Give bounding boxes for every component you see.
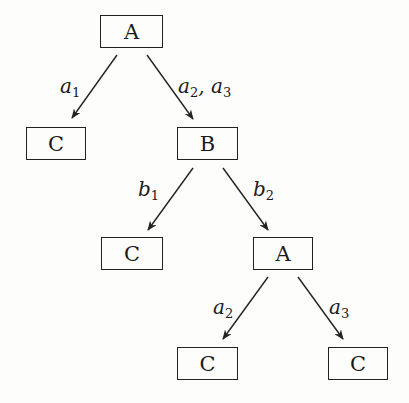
- node-label: C: [124, 242, 140, 266]
- node-c-mid: C: [101, 237, 163, 270]
- node-label: A: [275, 242, 290, 266]
- node-c-bottom-right: C: [328, 347, 388, 380]
- node-label: A: [124, 20, 139, 44]
- node-b: B: [177, 127, 238, 160]
- node-c-bottom-left: C: [177, 347, 238, 380]
- edges-layer: [0, 0, 409, 403]
- edge-label-a2-a3: a2, a3: [178, 74, 231, 100]
- node-label: B: [200, 132, 215, 156]
- edge-label-a3: a3: [329, 295, 349, 321]
- node-label: C: [48, 132, 64, 156]
- node-root-a: A: [100, 15, 163, 48]
- edge-label-a1: a1: [60, 74, 80, 100]
- node-c-left: C: [26, 127, 86, 160]
- edge-label-a2: a2: [213, 295, 233, 321]
- node-label: C: [350, 352, 366, 376]
- node-label: C: [199, 352, 215, 376]
- node-a-mid: A: [253, 237, 313, 270]
- edge-label-b2: b2: [253, 177, 274, 203]
- edge-label-b1: b1: [138, 177, 159, 203]
